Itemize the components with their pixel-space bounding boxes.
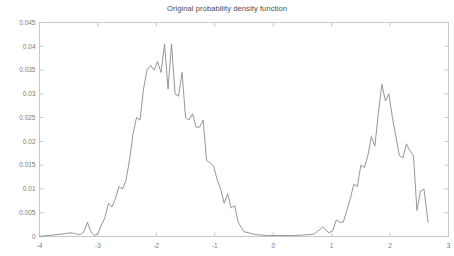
density-line — [40, 44, 429, 237]
x-tick-label: -2 — [153, 242, 159, 249]
y-tick-label: 0.03 — [23, 90, 36, 97]
x-axis-tick-labels: -4-3-2-10123 — [37, 242, 451, 249]
x-tick-label: -3 — [95, 242, 101, 249]
y-tick-label: 0 — [32, 233, 36, 240]
x-tick-label: 0 — [271, 242, 275, 249]
x-tick-label: 1 — [330, 242, 334, 249]
y-tick-label: 0.01 — [23, 185, 36, 192]
x-tick-label: -4 — [37, 242, 43, 249]
y-tick-label: 0.035 — [19, 66, 36, 73]
plot-frame — [40, 23, 449, 237]
x-tick-label: 3 — [447, 242, 451, 249]
y-tick-label: 0.025 — [19, 114, 36, 121]
y-axis-tick-labels: 00.0050.010.0150.020.0250.030.0350.040.0… — [19, 19, 36, 240]
x-tick-label: 2 — [388, 242, 392, 249]
y-tick-label: 0.02 — [23, 138, 36, 145]
y-tick-label: 0.015 — [19, 161, 36, 168]
y-tick-label: 0.045 — [19, 19, 36, 26]
x-tick-label: -1 — [212, 242, 218, 249]
y-tick-label: 0.005 — [19, 209, 36, 216]
y-tick-label: 0.04 — [23, 43, 36, 50]
chart-figure: Original probability density function 00… — [0, 0, 454, 256]
axes-border — [40, 23, 449, 237]
density-plot: 00.0050.010.0150.020.0250.030.0350.040.0… — [0, 0, 454, 256]
tick-marks — [40, 23, 449, 237]
